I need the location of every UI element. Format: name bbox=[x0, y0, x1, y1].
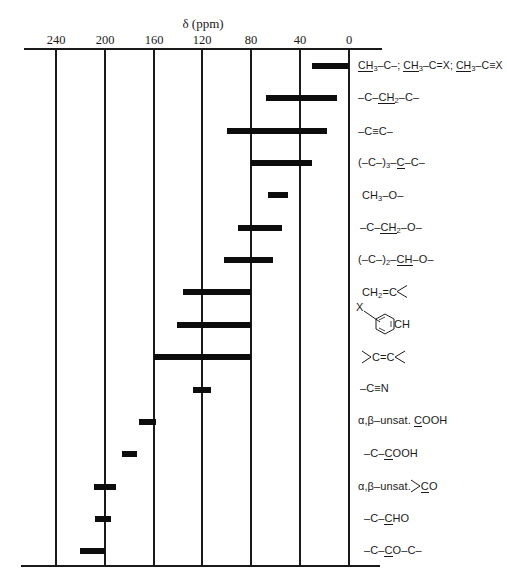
row-label-nitrile: –C≡N bbox=[360, 382, 389, 394]
range-bar bbox=[251, 160, 312, 166]
row-label-quaternary: (–C–)3–C–C– bbox=[358, 156, 425, 170]
tick-label-120: 120 bbox=[193, 33, 212, 48]
gridline-160 bbox=[153, 49, 155, 566]
range-bar bbox=[238, 225, 282, 231]
range-bar bbox=[268, 192, 288, 198]
branch-bond-icon bbox=[395, 350, 407, 364]
row-label-acid: –C–COOH bbox=[364, 447, 418, 459]
substituent-x: X bbox=[356, 301, 363, 313]
range-bar bbox=[95, 516, 111, 522]
branch-bond-icon bbox=[397, 285, 409, 299]
range-bar bbox=[183, 289, 251, 295]
aromatic-ch: CH bbox=[394, 318, 410, 330]
row-label-alkyne: –C≡C– bbox=[358, 125, 393, 137]
row-label-vinylidene: CH2=C bbox=[362, 285, 409, 300]
range-bar bbox=[154, 354, 252, 360]
row-label-aromatic: X CH bbox=[355, 305, 415, 345]
range-bar bbox=[312, 63, 349, 69]
range-bar bbox=[80, 548, 104, 554]
row-label-unsat-ketone: α,β–unsat.CO bbox=[358, 479, 438, 493]
top-axis-line bbox=[24, 48, 382, 50]
row-label-methyl: CH3–C–; CH3–C=X; CH3–C≡X bbox=[358, 59, 503, 73]
tick-label-0: 0 bbox=[346, 33, 352, 48]
row-label-methoxy: CH3–O– bbox=[362, 189, 403, 203]
range-bar bbox=[266, 95, 337, 101]
gridline-40 bbox=[299, 49, 301, 566]
x-axis-title: δ (ppm) bbox=[182, 16, 223, 32]
row-label-ch2-o: –C–CH2–O– bbox=[360, 221, 422, 235]
range-bar bbox=[122, 451, 137, 457]
tick-label-80: 80 bbox=[245, 33, 258, 48]
range-bar bbox=[94, 484, 116, 490]
tick-label-200: 200 bbox=[96, 33, 115, 48]
tick-label-40: 40 bbox=[294, 33, 307, 48]
range-bar bbox=[177, 322, 251, 328]
tick-label-160: 160 bbox=[145, 33, 164, 48]
row-label-unsat-acid: α,β–unsat. COOH bbox=[358, 414, 447, 426]
range-bar bbox=[227, 128, 327, 134]
row-label-ch-o: (–C–)2–CH–O– bbox=[358, 253, 434, 267]
gridline-0 bbox=[348, 49, 350, 566]
row-label-ketone: –C–CO–C– bbox=[364, 544, 422, 556]
gridline-80 bbox=[250, 49, 252, 566]
row-label-alkene: C=C bbox=[362, 350, 407, 364]
row-label-aldehyde: –C–CHO bbox=[364, 512, 409, 524]
range-bar bbox=[224, 257, 273, 263]
range-bar bbox=[193, 387, 211, 393]
gridline-120 bbox=[201, 49, 203, 566]
gridline-240 bbox=[55, 49, 57, 566]
row-label-methylene: –C–CH2–C– bbox=[358, 91, 419, 105]
branch-bond-icon bbox=[411, 479, 421, 493]
range-bar bbox=[139, 419, 156, 425]
branch-bond-icon bbox=[362, 350, 372, 364]
tick-label-240: 240 bbox=[47, 33, 66, 48]
